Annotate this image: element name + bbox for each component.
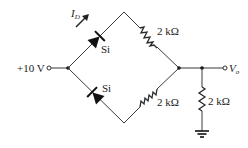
ground-icon xyxy=(195,131,209,137)
circuit-diagram: +10 V ID Si Si 2 kΩ 2 kΩ 2 kΩ Vo xyxy=(0,0,248,148)
current-label-sub: D xyxy=(75,13,80,21)
output-voltage-label: Vo xyxy=(229,63,239,76)
source-voltage-label: +10 V xyxy=(17,63,45,74)
output-label-main: V xyxy=(229,62,236,74)
resistor-r1-icon xyxy=(140,27,157,48)
output-terminal xyxy=(223,66,227,70)
circuit-wiring xyxy=(0,0,248,148)
resistor-r1-label: 2 kΩ xyxy=(157,26,179,37)
diode-d2-label: Si xyxy=(102,83,111,94)
resistor-r3-icon xyxy=(199,87,205,111)
upper-right-wire-a xyxy=(124,12,140,28)
current-label: ID xyxy=(71,8,80,21)
lower-right-wire-b xyxy=(157,68,179,89)
diode-d1-label: Si xyxy=(101,44,110,55)
output-label-sub: o xyxy=(236,68,240,76)
resistor-r2-label: 2 kΩ xyxy=(157,97,179,108)
resistor-r3-label: 2 kΩ xyxy=(208,96,230,107)
resistor-r2-icon xyxy=(140,89,157,107)
upper-right-wire-b xyxy=(157,47,179,68)
lower-right-wire-a xyxy=(124,107,140,123)
input-terminal xyxy=(47,66,51,70)
